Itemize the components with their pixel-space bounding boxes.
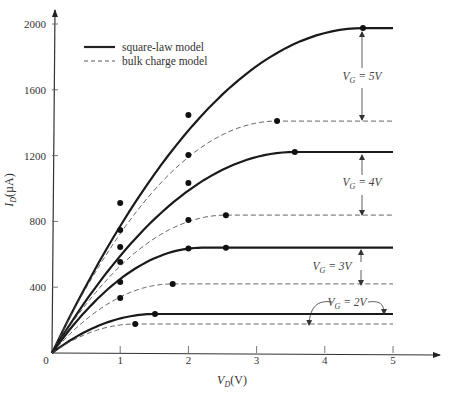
legend-label-square-law: square-law model — [122, 41, 204, 54]
data-point-marker — [223, 245, 229, 251]
data-point-marker — [185, 152, 191, 158]
vg-label: VG = 3V — [312, 260, 353, 275]
vg-label: VG = 4V — [342, 176, 383, 191]
y-tick-label: 2000 — [24, 18, 47, 30]
data-point-marker — [117, 227, 123, 233]
legend: square-law model bulk charge model — [84, 41, 207, 68]
data-point-marker — [117, 279, 123, 285]
square-law-curve — [52, 314, 393, 353]
x-tick-label: 4 — [322, 354, 328, 366]
data-point-marker — [117, 244, 123, 250]
bulk-charge-curve — [52, 121, 393, 353]
y-axis-label: ID(µA) — [2, 173, 18, 207]
data-point-marker — [117, 200, 123, 206]
data-point-marker — [274, 118, 280, 124]
bulk-charge-curve — [52, 324, 393, 353]
data-point-marker — [170, 281, 176, 287]
vg-label: VG = 2V — [327, 296, 368, 311]
legend-label-bulk-charge: bulk charge model — [122, 55, 207, 68]
data-point-marker — [185, 180, 191, 186]
data-point-marker — [117, 295, 123, 301]
chart: 012345 400800120016002000 VD(V) ID(µA) s… — [0, 0, 452, 397]
data-point-marker — [223, 212, 229, 218]
data-markers — [117, 25, 366, 327]
annotations: VG = 5VVG = 4VVG = 3VVG = 2V — [309, 32, 384, 325]
x-axis-label: VD(V) — [217, 373, 247, 389]
data-point-marker — [292, 149, 298, 155]
data-point-marker — [185, 112, 191, 118]
y-tick-label: 800 — [30, 215, 47, 227]
x-tick-label: 0 — [43, 354, 49, 366]
y-tick-label: 1200 — [24, 150, 47, 162]
vg-label: VG = 5V — [342, 70, 383, 85]
x-tick-label: 5 — [390, 354, 396, 366]
y-tick-label: 400 — [30, 281, 47, 293]
data-point-marker — [185, 245, 191, 251]
x-tick-label: 1 — [117, 354, 123, 366]
data-point-marker — [185, 217, 191, 223]
data-point-marker — [152, 311, 158, 317]
y-tick-label: 1600 — [24, 84, 47, 96]
x-ticks: 012345 — [43, 346, 396, 366]
x-tick-label: 3 — [254, 354, 260, 366]
data-point-marker — [132, 321, 138, 327]
x-axis — [52, 353, 440, 355]
annotation-arrow — [368, 302, 384, 314]
y-axis — [52, 10, 55, 353]
x-tick-label: 2 — [186, 354, 192, 366]
data-point-marker — [360, 25, 366, 31]
data-point-marker — [117, 259, 123, 265]
